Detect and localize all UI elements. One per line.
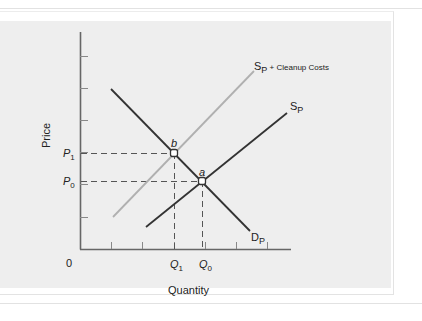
point-b-label: b	[171, 137, 177, 149]
point-b-marker	[171, 150, 178, 157]
demand-label: DP	[251, 231, 265, 246]
social-supply-curve	[113, 71, 254, 217]
bottom-divider	[0, 303, 422, 304]
guide-lines	[81, 153, 203, 249]
x-axis-title: Quantity	[168, 284, 209, 296]
private-supply-label: SP	[290, 100, 303, 115]
social-supply-label: SP + Cleanup Costs	[254, 60, 329, 75]
p1-label: P1	[63, 147, 75, 162]
externality-supply-demand-diagram: b a SP + Cleanup Costs SP DP P1 P0 Q1 Q0…	[0, 0, 422, 321]
q1-label: Q1	[170, 258, 184, 273]
y-axis-title: Price	[40, 123, 52, 148]
point-a-marker	[199, 178, 206, 185]
x-ticks	[112, 242, 268, 249]
p0-label: P0	[63, 175, 75, 190]
origin-label: 0	[66, 257, 72, 269]
point-a-label: a	[199, 166, 205, 178]
private-supply-curve	[146, 113, 287, 227]
q0-label: Q0	[199, 258, 213, 273]
